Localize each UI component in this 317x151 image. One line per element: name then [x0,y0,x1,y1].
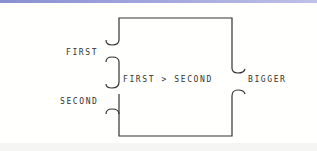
block-outline-bottom [119,94,232,136]
bottom-strip [0,143,317,151]
output-label: BIGGER [248,75,287,84]
input-label-second: SECOND [60,97,99,106]
first-input-notch [106,40,119,45]
block-outline [119,18,232,68]
block-diagram: FIRST SECOND FIRST > SECOND BIGGER [0,0,317,151]
operation-label: FIRST > SECOND [123,75,213,84]
output-notch [232,68,245,73]
second-input-notch [106,109,119,114]
input-label-first: FIRST [66,48,98,57]
first-second-notch [106,57,119,88]
diagram-canvas: FIRST SECOND FIRST > SECOND BIGGER [0,0,317,151]
output-notch-lower [232,90,245,96]
